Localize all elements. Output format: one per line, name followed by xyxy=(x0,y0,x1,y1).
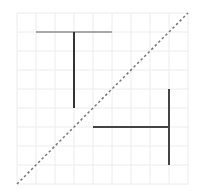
mirror-line xyxy=(17,13,188,184)
mirror-dashed-line xyxy=(17,13,188,184)
reflection-diagram xyxy=(0,0,198,191)
